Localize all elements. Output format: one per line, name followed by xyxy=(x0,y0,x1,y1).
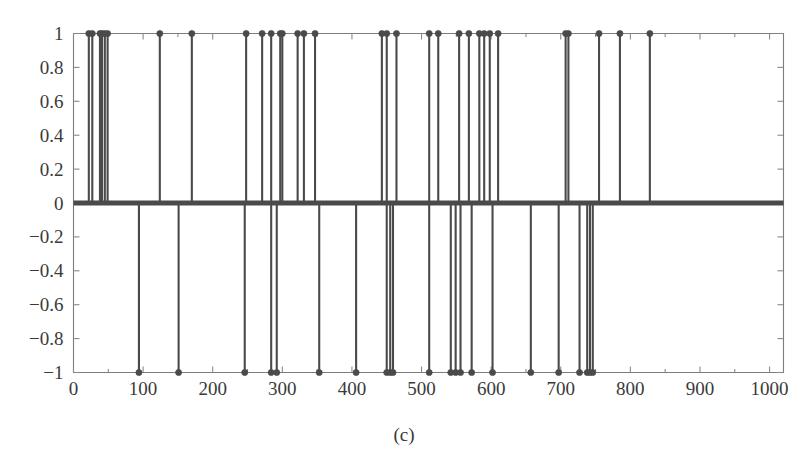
data-point-marker xyxy=(295,30,301,36)
data-point-marker xyxy=(279,30,285,36)
data-point-marker xyxy=(565,30,571,36)
y-tick-label: 0.4 xyxy=(40,125,64,146)
x-tick-label: 800 xyxy=(616,378,645,399)
data-point-marker xyxy=(242,369,248,375)
data-point-marker xyxy=(136,369,142,375)
data-point-marker xyxy=(590,369,596,375)
x-tick-label: 100 xyxy=(129,378,158,399)
data-point-marker xyxy=(353,369,359,375)
data-point-marker xyxy=(647,30,653,36)
y-tick-label: −0.8 xyxy=(29,328,63,349)
y-tick-label: −0.6 xyxy=(29,294,63,315)
data-point-marker xyxy=(426,369,432,375)
figure-caption: (c) xyxy=(0,424,808,446)
data-point-marker xyxy=(426,30,432,36)
data-point-marker xyxy=(268,30,274,36)
data-point-marker xyxy=(316,369,322,375)
data-point-marker xyxy=(469,369,475,375)
y-tick-label: −0.2 xyxy=(29,226,63,247)
data-point-marker xyxy=(528,369,534,375)
x-axis-tick-labels: 01002003004005006007008009001000 xyxy=(69,378,789,399)
data-point-marker xyxy=(576,369,582,375)
x-tick-label: 200 xyxy=(198,378,227,399)
data-point-marker xyxy=(495,30,501,36)
data-point-marker xyxy=(617,30,623,36)
x-tick-label: 1000 xyxy=(751,378,789,399)
data-point-marker xyxy=(274,369,280,375)
data-point-marker xyxy=(393,30,399,36)
data-point-marker xyxy=(556,369,562,375)
x-tick-label: 300 xyxy=(268,378,297,399)
y-tick-label: 0.6 xyxy=(40,91,64,112)
x-tick-label: 600 xyxy=(477,378,506,399)
y-tick-label: −1 xyxy=(43,362,63,383)
data-point-marker xyxy=(596,30,602,36)
y-axis-tick-labels: −1−0.8−0.6−0.4−0.200.20.40.60.81 xyxy=(29,23,64,383)
y-tick-label: 1 xyxy=(54,23,64,44)
data-point-marker xyxy=(435,30,441,36)
data-point-marker xyxy=(176,369,182,375)
data-point-marker xyxy=(105,30,111,36)
data-point-marker xyxy=(489,369,495,375)
x-tick-label: 0 xyxy=(69,378,79,399)
data-point-marker xyxy=(259,30,265,36)
data-point-marker xyxy=(456,30,462,36)
data-point-marker xyxy=(466,30,472,36)
data-point-marker xyxy=(243,30,249,36)
stem-plot-chart: 01002003004005006007008009001000 −1−0.8−… xyxy=(0,0,808,420)
data-point-marker xyxy=(301,30,307,36)
x-tick-label: 700 xyxy=(547,378,576,399)
data-point-marker xyxy=(89,30,95,36)
figure-panel: 01002003004005006007008009001000 −1−0.8−… xyxy=(0,0,808,472)
data-point-marker xyxy=(487,30,493,36)
y-tick-label: 0 xyxy=(54,193,64,214)
y-tick-label: 0.2 xyxy=(40,159,64,180)
data-point-marker xyxy=(384,30,390,36)
data-point-marker xyxy=(390,369,396,375)
x-tick-label: 900 xyxy=(686,378,715,399)
y-tick-label: −0.4 xyxy=(29,260,64,281)
y-tick-label: 0.8 xyxy=(40,57,64,78)
x-tick-label: 400 xyxy=(338,378,367,399)
data-point-marker xyxy=(312,30,318,36)
x-tick-label: 500 xyxy=(407,378,436,399)
data-point-marker xyxy=(157,30,163,36)
data-point-marker xyxy=(189,30,195,36)
data-point-marker xyxy=(457,369,463,375)
